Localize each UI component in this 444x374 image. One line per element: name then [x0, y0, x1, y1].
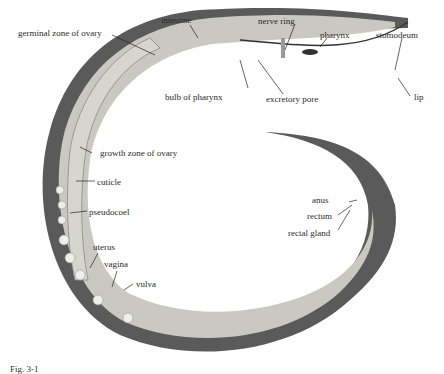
label-bulb-of-pharynx: bulb of pharynx [165, 92, 223, 102]
label-excretory-pore: excretory pore [266, 94, 318, 104]
label-uterus: uterus [93, 242, 115, 252]
label-pseudocoel: pseudocoel [89, 207, 130, 217]
label-nerve-ring: nerve ring [258, 16, 295, 26]
label-intestine: intestine [161, 15, 192, 25]
figure-caption: Fig. 3-1 [10, 364, 39, 374]
label-vulva: vulva [136, 279, 156, 289]
label-cuticle: cuticle [97, 177, 121, 187]
nerve-ring [281, 38, 285, 58]
label-germinal-zone: germinal zone of ovary [18, 28, 102, 38]
label-rectal-gland: rectal gland [288, 228, 330, 238]
label-pharynx: pharynx [320, 30, 350, 40]
label-lip: lip [414, 92, 424, 102]
label-vagina: vagina [104, 259, 128, 269]
label-growth-zone: growth zone of ovary [100, 148, 177, 158]
pharynx-bulb [302, 49, 318, 55]
label-rectum: rectum [307, 211, 332, 221]
label-anus: anus [312, 195, 329, 205]
label-stomodeum: stomodeum [376, 30, 418, 40]
